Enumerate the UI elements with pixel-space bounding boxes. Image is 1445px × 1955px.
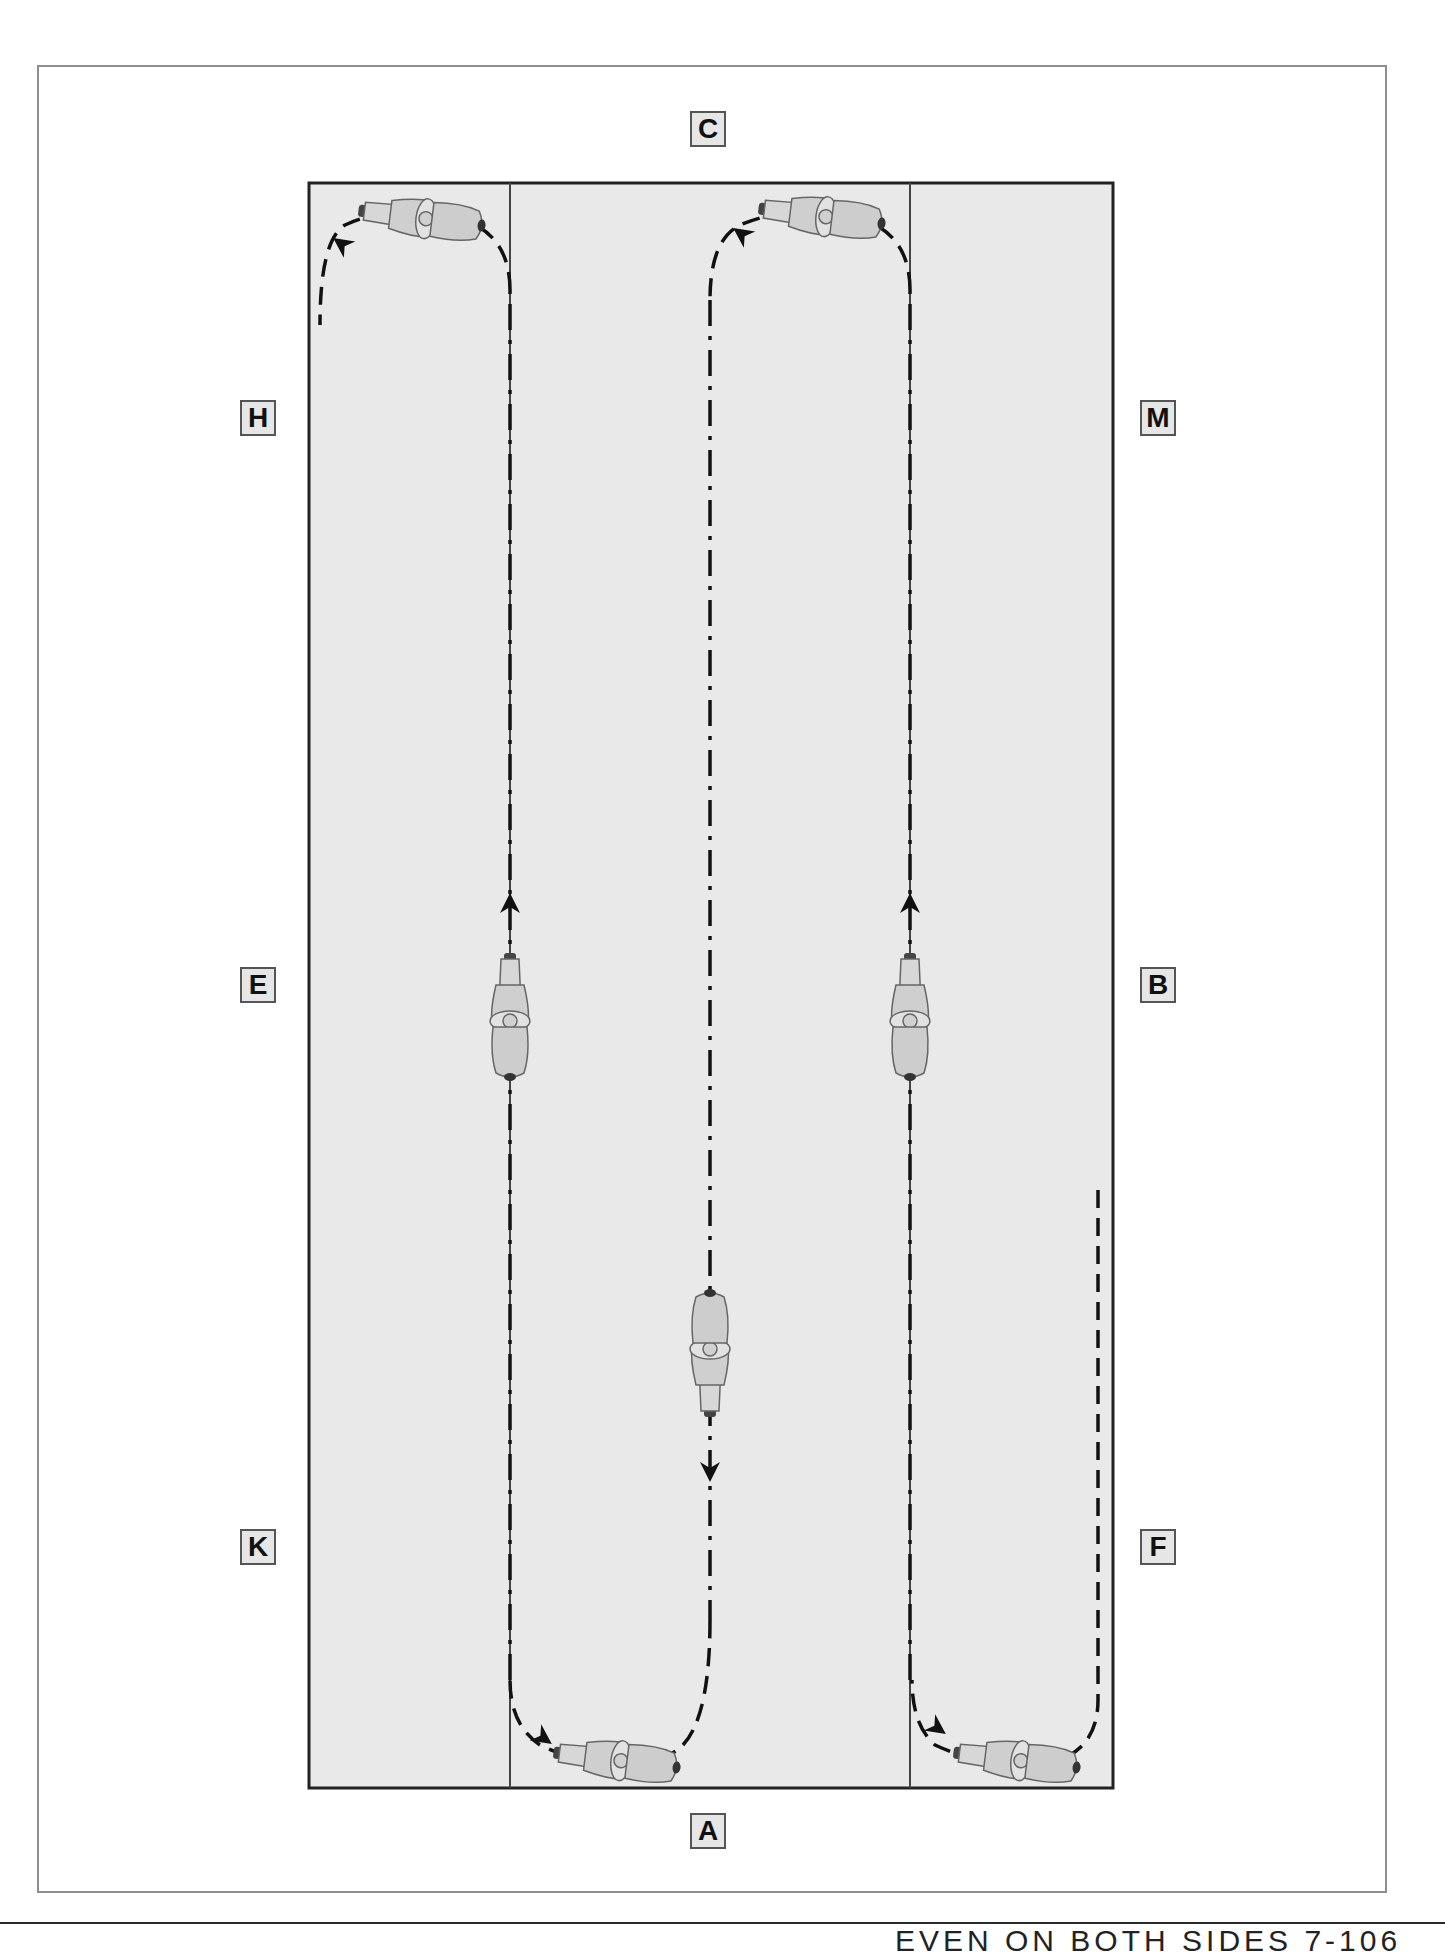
marker-f: F	[1140, 1529, 1176, 1565]
marker-k: K	[240, 1529, 276, 1565]
marker-m: M	[1140, 400, 1176, 436]
footer-caption: EVEN ON BOTH SIDES 7-106	[895, 1926, 1401, 1955]
marker-h: H	[240, 400, 276, 436]
marker-c: C	[690, 111, 726, 147]
marker-b: B	[1140, 967, 1176, 1003]
marker-a: A	[690, 1813, 726, 1849]
marker-e: E	[240, 967, 276, 1003]
